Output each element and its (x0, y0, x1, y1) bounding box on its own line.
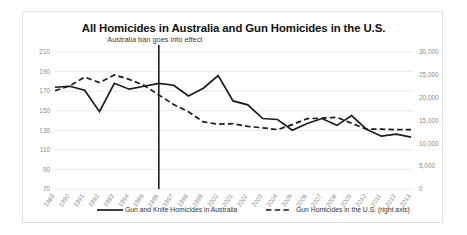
left-axis-tick-label: 70 (43, 185, 51, 192)
right-axis-tick-label: 25,000 (419, 71, 439, 78)
right-axis-tick-label: 0 (419, 185, 423, 192)
x-axis-tick-label: 1991 (72, 192, 86, 208)
left-axis-tick-label: 130 (39, 127, 50, 134)
right-axis-tick-label: 10,000 (419, 140, 439, 147)
right-axis-tick-label: 20,000 (419, 94, 439, 101)
x-axis-tick-label: 2005 (280, 192, 294, 208)
right-axis-tick-label: 30,000 (419, 48, 439, 55)
left-axis-ticks: 7090110130150170190210 (39, 48, 50, 192)
right-axis-tick-label: 5,000 (419, 162, 435, 169)
right-axis-ticks: 05,00010,00015,00020,00025,00030,000 (419, 48, 439, 192)
australia-ban-annotation-label: Australia ban goes into effect (107, 35, 202, 44)
chart-card: All Homicides in Australia and Gun Homic… (22, 11, 443, 223)
x-axis-tick-label: 2004 (265, 192, 279, 208)
left-axis-tick-label: 90 (43, 166, 51, 173)
left-axis-tick-label: 170 (39, 87, 50, 94)
homicides-line-chart: 7090110130150170190210 05,00010,00015,00… (23, 12, 444, 224)
legend-label-us: Gun Homicides in the U.S. (right axis) (296, 206, 410, 214)
left-axis-tick-label: 110 (40, 146, 51, 153)
series-line-australia (55, 75, 411, 137)
legend-label-australia: Gun and Knife Homicides in Australia (125, 206, 237, 213)
right-axis-tick-label: 15,000 (419, 117, 439, 124)
left-axis-tick-label: 150 (39, 107, 50, 114)
x-axis-tick-label: 1992 (87, 192, 101, 208)
x-axis-tick-label: 2003 (250, 192, 264, 208)
gridlines-group (55, 52, 413, 189)
left-axis-tick-label: 210 (39, 48, 50, 55)
left-axis-tick-label: 190 (39, 68, 50, 75)
x-axis-tick-label: 1990 (57, 192, 71, 208)
x-axis-tick-label: 1993 (102, 192, 116, 208)
x-axis-tick-label: 1989 (42, 192, 56, 208)
